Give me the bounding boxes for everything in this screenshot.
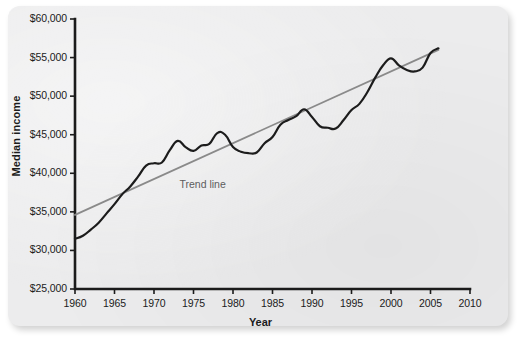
chart-plot-area [0, 0, 521, 339]
